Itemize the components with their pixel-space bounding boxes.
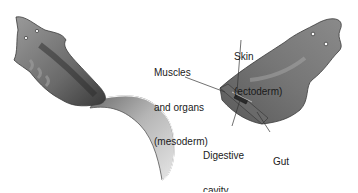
muscles-label: Muscles and organs (mesoderm) [154, 44, 208, 171]
skin-label-line2: (ectoderm) [234, 86, 282, 98]
left-eye-2 [35, 29, 38, 32]
left-eye-1 [24, 36, 27, 39]
muscles-label-line2: and organs [154, 102, 208, 114]
skin-label: Skin (ectoderm) [234, 28, 282, 120]
flatworm-diagram: Skin (ectoderm) Muscles and organs (meso… [0, 0, 358, 192]
muscles-label-line3: (mesoderm) [154, 136, 208, 148]
gut-label-line1: Gut [273, 156, 325, 168]
muscles-label-line1: Muscles [154, 67, 208, 79]
right-eye-1 [311, 32, 315, 36]
right-eye-2 [324, 42, 328, 46]
gut-label: Gut (endoderm) [273, 133, 325, 192]
left-worm-head [14, 17, 105, 106]
gut-label-line2: (endoderm) [273, 191, 325, 193]
digestive-label-line1: Digestive [203, 150, 244, 162]
digestive-label-line2: cavity [203, 185, 244, 193]
digestive-label: Digestive cavity [203, 127, 244, 192]
skin-label-line1: Skin [234, 51, 282, 63]
